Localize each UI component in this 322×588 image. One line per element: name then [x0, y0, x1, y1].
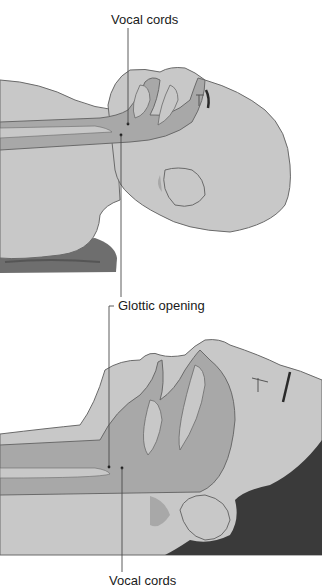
- label-glottic-opening: Glottic opening: [118, 299, 205, 312]
- label-vocal-cords-top: Vocal cords: [111, 13, 178, 26]
- top-body: [0, 80, 120, 259]
- bottom-head-panel: [0, 306, 322, 572]
- label-vocal-cords-bottom: Vocal cords: [109, 574, 176, 587]
- top-head-panel: [0, 28, 290, 297]
